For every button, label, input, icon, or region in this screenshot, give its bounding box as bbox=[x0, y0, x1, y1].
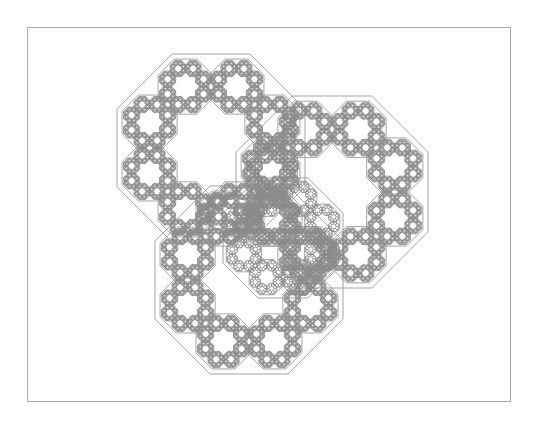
octagon-fractal bbox=[0, 0, 537, 426]
